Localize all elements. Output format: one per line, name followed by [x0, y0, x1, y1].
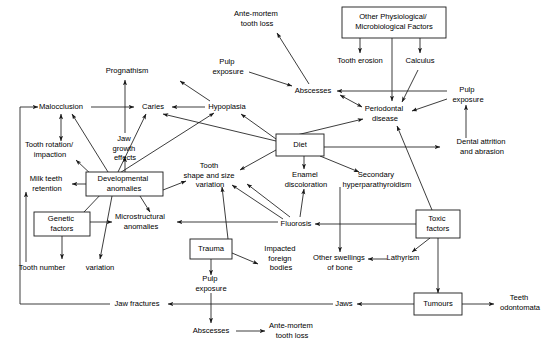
node-label-caries: Caries: [142, 102, 164, 111]
node-label-pulp-exposure-right: Pulp exposure: [452, 85, 483, 104]
edge-developmental-toothshape: [163, 181, 186, 190]
node-label-calculus: Calculus: [405, 56, 434, 65]
node-label-microstructural: Microstructural anomalies: [115, 212, 167, 231]
node-label-pulp-exposure-top: Pulp exposure: [212, 57, 243, 76]
edge-periodontal-abscesses: [340, 95, 362, 107]
node-label-tooth-shape: Tooth shape and size variation: [183, 161, 236, 189]
node-label-secondary-hyper: Secondary hyperparathyroidism: [343, 170, 412, 189]
node-label-prognathism: Prognathism: [106, 66, 149, 75]
node-label-toxic-factors: Toxic factors: [427, 214, 450, 233]
edge-pulpexposure-abscesses: [249, 72, 292, 86]
node-label-jaw-fractures: Jaw fractures: [114, 299, 159, 308]
node-label-lathyrism: Lathyrism: [387, 253, 420, 262]
node-label-genetic-factors: Genetic factors: [48, 214, 76, 233]
node-label-trauma: Trauma: [198, 244, 225, 253]
node-label-fluorosis: Fluorosis: [281, 219, 312, 228]
node-label-malocclusion: Malocclusion: [39, 102, 83, 111]
node-label-other-factors: Other Physiological/ Microbiological Fac…: [355, 12, 433, 31]
node-label-milk-teeth: Milk teeth retention: [30, 174, 65, 193]
node-label-diet: Diet: [293, 140, 307, 149]
edge-jawfractures-malocclusion: [20, 107, 110, 304]
flowchart-canvas: Malocclusion Prognathism Caries Hypoplas…: [0, 0, 550, 351]
node-label-ante-mortem-bottom: Ante-mortem tooth loss: [269, 321, 315, 340]
node-label-teeth-odontomata: Teeth odontomata: [500, 293, 541, 312]
node-label-ante-mortem-top: Ante-mortem tooth loss: [234, 9, 280, 28]
edge-developmental-microstruct: [140, 196, 150, 212]
edge-toxic-lathyrism: [412, 238, 430, 252]
edge-diet-caries: [163, 114, 276, 141]
node-label-jaw-growth: Jaw growth effects: [113, 134, 138, 162]
node-label-pulp-exposure-bottom: Pulp exposure: [195, 274, 226, 293]
edge-trauma-impacted: [232, 253, 258, 264]
edge-developmental-variation: [100, 196, 112, 259]
node-label-jaws: Jaws: [335, 299, 353, 308]
node-layer: Malocclusion Prognathism Caries Hypoplas…: [19, 7, 541, 340]
edge-diet-hypoplasia: [241, 114, 276, 139]
node-label-tumours: Tumours: [423, 299, 453, 308]
node-label-periodontal-disease: Periodontal disease: [365, 104, 406, 123]
edge-trauma-toothshape: [222, 187, 228, 239]
edge-pulpright-periodontal: [412, 99, 447, 111]
edge-diet-toothshape: [240, 150, 276, 170]
node-label-other-swellings: Other swellings of bone: [313, 253, 367, 272]
node-label-abscesses-top: Abscesses: [295, 86, 332, 95]
node-label-tooth-erosion: Tooth erosion: [337, 56, 383, 65]
edge-hypoplasia-pulpexposure: [180, 81, 210, 101]
edge-abscesses-antemortem: [277, 33, 309, 84]
pathology-flow-diagram: Malocclusion Prognathism Caries Hypoplas…: [0, 0, 550, 351]
node-label-hypoplasia: Hypoplasia: [208, 102, 246, 111]
node-label-dental-attrition: Dental attrition and abrasion: [456, 137, 507, 156]
edge-developmental-malocclusion: [72, 114, 108, 172]
node-label-abscesses-bottom: Abscesses: [193, 326, 230, 335]
node-label-variation-left: variation: [86, 263, 115, 272]
edge-toxic-periodontal: [397, 126, 432, 210]
node-label-tooth-rotation: Tooth rotation/ impaction: [25, 140, 75, 159]
edge-fluorosis-enamel: [300, 189, 304, 217]
node-label-tooth-number: Tooth number: [19, 263, 66, 272]
node-label-enamel-discoloration: Enamel discoloration: [285, 170, 328, 189]
edge-diet-secondaryhyper: [320, 156, 359, 172]
node-label-impacted-bodies: Impacted foreign bodies: [264, 244, 297, 272]
edge-fluorosis-toothshape: [232, 185, 283, 219]
edge-fluorosis-hypoplasia: [247, 184, 290, 217]
edge-calculus-periodontal: [402, 70, 418, 102]
